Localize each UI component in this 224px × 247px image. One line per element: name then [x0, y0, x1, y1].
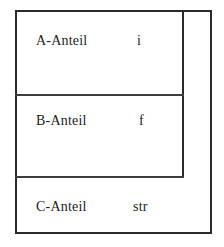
- row-c-label: C-Anteil: [36, 199, 87, 214]
- divider-row-a-b: [15, 94, 184, 96]
- diagram-canvas: A-Anteil i B-Anteil f C-Anteil str: [0, 0, 224, 247]
- outer-box-right-edge: [210, 10, 212, 234]
- outer-box-left-edge: [15, 10, 17, 234]
- row-a-type: i: [137, 33, 141, 48]
- row-b-label: B-Anteil: [36, 113, 87, 128]
- row-c-type: str: [133, 199, 148, 214]
- divider-row-b-c: [15, 176, 184, 178]
- row-b-type: f: [139, 113, 144, 128]
- row-a-label: A-Anteil: [36, 33, 87, 48]
- outer-box-bottom-edge: [15, 232, 212, 234]
